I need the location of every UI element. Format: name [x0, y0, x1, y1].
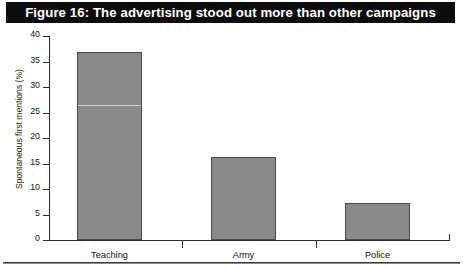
figure-title-banner: Figure 16: The advertising stood out mor…: [6, 2, 455, 23]
y-tick-label-25: 25: [14, 107, 40, 116]
y-tick-label-5: 5: [14, 209, 40, 218]
x-category-label-police: Police: [345, 250, 410, 260]
y-axis-line: [49, 36, 50, 241]
x-tick-2: [316, 241, 317, 248]
bar-scanline: [78, 105, 141, 106]
bottom-divider-shadow: [3, 263, 460, 264]
y-tick-label-15: 15: [14, 158, 40, 167]
bar-army: [211, 157, 276, 240]
y-tick-label-10: 10: [14, 183, 40, 192]
figure-container: Figure 16: The advertising stood out mor…: [0, 0, 463, 269]
x-category-label-teaching: Teaching: [77, 250, 142, 260]
bar-police: [345, 203, 410, 240]
x-axis-end-tick: [449, 234, 450, 241]
bar-chart: Spontaneous first mentions (%) 0 5 10 15…: [0, 24, 463, 269]
y-tick-label-30: 30: [14, 81, 40, 90]
y-tick-label-20: 20: [14, 132, 40, 141]
figure-title: Figure 16: The advertising stood out mor…: [25, 5, 436, 20]
y-tick-label-35: 35: [14, 56, 40, 65]
y-tick-label-0: 0: [14, 234, 40, 243]
x-axis-line: [49, 240, 450, 241]
x-tick-1: [182, 241, 183, 248]
y-tick-label-40: 40: [14, 30, 40, 39]
bar-teaching: [77, 52, 142, 240]
x-category-label-army: Army: [211, 250, 276, 260]
